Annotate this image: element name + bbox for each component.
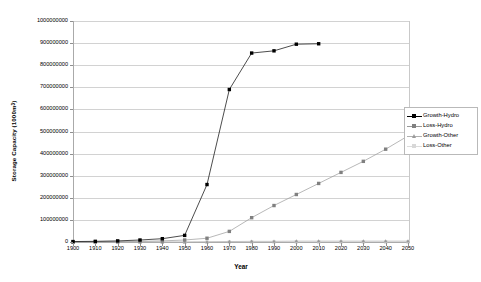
data-point-marker <box>295 193 298 196</box>
x-tick-mark <box>363 243 364 246</box>
data-point-marker <box>138 238 141 241</box>
series-line <box>73 136 408 242</box>
legend-label: Loss-Other <box>423 143 452 149</box>
y-tick-label: 900000000 <box>8 40 68 46</box>
y-tick-mark <box>70 65 73 66</box>
data-point-marker <box>183 234 186 237</box>
x-tick-mark <box>118 243 119 246</box>
x-tick-mark <box>319 243 320 246</box>
y-tick-label: 300000000 <box>8 173 68 179</box>
x-tick-mark <box>162 243 163 246</box>
y-tick-label: 700000000 <box>8 84 68 90</box>
x-tick-mark <box>252 243 253 246</box>
y-tick-mark <box>70 109 73 110</box>
x-tick-mark <box>185 243 186 246</box>
legend-item-growth-other[interactable]: Growth-Other <box>406 131 475 141</box>
data-point-marker <box>228 88 231 91</box>
legend-key-icon <box>406 141 423 151</box>
data-point-marker <box>317 42 320 45</box>
y-tick-label: 400000000 <box>8 151 68 157</box>
data-point-marker <box>272 49 275 52</box>
y-tick-label: 200000000 <box>8 195 68 201</box>
y-tick-mark <box>70 43 73 44</box>
series-layer <box>73 21 409 243</box>
legend-item-loss-hydro[interactable]: Loss-Hydro <box>406 121 475 131</box>
legend-marker-icon <box>412 114 416 118</box>
x-tick-mark <box>207 243 208 246</box>
y-tick-label: 600000000 <box>8 106 68 112</box>
y-tick-mark <box>70 176 73 177</box>
legend-key-icon <box>406 121 423 131</box>
data-point-marker <box>205 237 208 240</box>
series-growth-hydro <box>71 42 320 243</box>
series-line <box>73 44 319 242</box>
y-tick-mark <box>70 132 73 133</box>
y-axis-title-close: ) <box>10 101 17 103</box>
y-tick-label: 500000000 <box>8 129 68 135</box>
legend-marker-icon <box>412 134 416 138</box>
data-point-marker <box>384 147 387 150</box>
y-tick-mark <box>70 154 73 155</box>
y-tick-mark <box>70 198 73 199</box>
legend-item-growth-hydro[interactable]: Growth-Hydro <box>406 111 475 121</box>
data-point-marker <box>250 51 253 54</box>
y-tick-label: 100000000 <box>8 217 68 223</box>
x-tick-label: 2050 <box>393 246 423 252</box>
legend-label: Growth-Other <box>423 133 458 139</box>
legend-marker-icon <box>412 144 416 148</box>
legend-key-icon <box>406 131 423 141</box>
y-tick-label: 800000000 <box>8 62 68 68</box>
data-point-marker <box>183 238 186 241</box>
chart-legend: Growth-HydroLoss-HydroGrowth-OtherLoss-O… <box>404 107 478 155</box>
y-axis-title-text: Storage Capacity (1000m <box>10 105 17 181</box>
legend-item-loss-other[interactable]: Loss-Other <box>406 141 475 151</box>
x-tick-mark <box>296 243 297 246</box>
data-point-marker <box>362 160 365 163</box>
y-tick-label: 1000000000 <box>8 18 68 24</box>
data-point-marker <box>317 182 320 185</box>
data-point-marker <box>272 204 275 207</box>
x-tick-mark <box>386 243 387 246</box>
data-point-marker <box>250 216 253 219</box>
y-tick-mark <box>70 87 73 88</box>
y-axis-title-exponent: 3 <box>11 103 16 106</box>
x-tick-mark <box>229 243 230 246</box>
data-point-marker <box>339 171 342 174</box>
x-tick-mark <box>408 243 409 246</box>
legend-label: Growth-Hydro <box>423 113 459 119</box>
data-point-marker <box>228 230 231 233</box>
series-loss-hydro <box>71 134 409 243</box>
x-tick-mark <box>341 243 342 246</box>
x-tick-mark <box>95 243 96 246</box>
x-tick-mark <box>140 243 141 246</box>
legend-label: Loss-Hydro <box>423 123 453 129</box>
y-tick-label: 0 <box>8 239 68 245</box>
data-point-marker <box>161 237 164 240</box>
y-tick-mark <box>70 21 73 22</box>
legend-key-icon <box>406 111 423 121</box>
x-tick-mark <box>274 243 275 246</box>
x-tick-mark <box>73 243 74 246</box>
data-point-marker <box>205 183 208 186</box>
data-point-marker <box>295 43 298 46</box>
legend-marker-icon <box>412 124 416 128</box>
storage-capacity-line-chart: Storage Capacity (1000m3) 01000000002000… <box>0 0 481 282</box>
x-axis-title: Year <box>73 263 409 270</box>
y-tick-mark <box>70 220 73 221</box>
